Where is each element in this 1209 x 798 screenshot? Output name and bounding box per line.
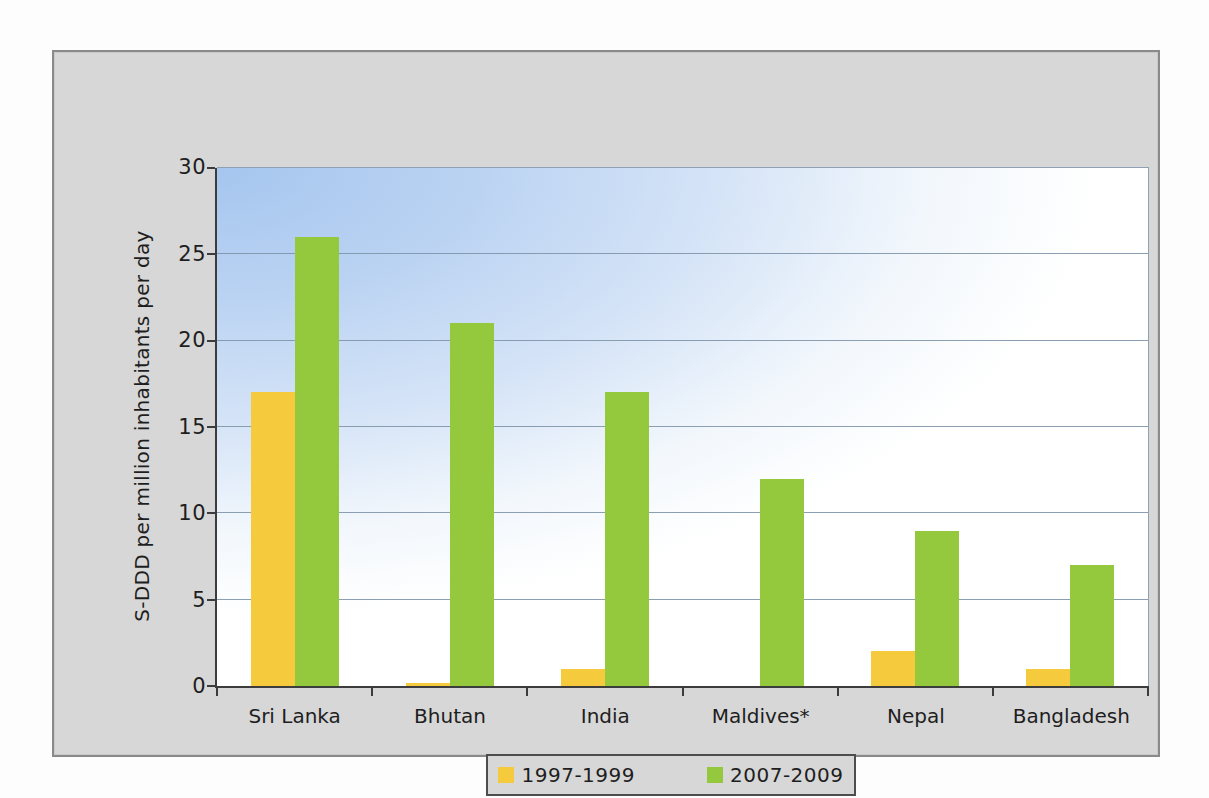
- y-tick-5: [207, 599, 215, 601]
- legend-box: 1997-1999 2007-2009: [486, 754, 856, 796]
- chart-panel: S-DDD per million inhabitants per day 05…: [52, 50, 1160, 757]
- y-tick-25: [207, 253, 215, 255]
- bar-bangladesh-1997-1999: [1026, 669, 1070, 686]
- y-tick-label-10: 10: [178, 501, 206, 525]
- x-category-label-nepal: Nepal: [838, 704, 993, 734]
- y-tick-label-20: 20: [178, 328, 206, 352]
- page: S-DDD per million inhabitants per day 05…: [0, 0, 1209, 798]
- bar-group-bhutan: [372, 168, 527, 686]
- y-tick-0: [207, 685, 215, 687]
- bar-group-india: [527, 168, 682, 686]
- bar-nepal-1997-1999: [871, 651, 915, 686]
- bar-sri-lanka-2007-2009: [295, 237, 339, 686]
- y-tick-label-25: 25: [178, 242, 206, 266]
- legend-swatch-1997-1999-icon: [498, 767, 514, 783]
- y-tick-20: [207, 340, 215, 342]
- bar-group-sri-lanka: [217, 168, 372, 686]
- x-category-label-india: India: [528, 704, 683, 734]
- x-tick-4: [837, 688, 839, 696]
- bar-group-maldives: [683, 168, 838, 686]
- bar-bhutan-1997-1999: [406, 683, 450, 686]
- y-axis-tick-labels: 051015202530: [154, 167, 206, 686]
- x-tick-1: [371, 688, 373, 696]
- y-tick-label-0: 0: [192, 674, 206, 698]
- plot-area: [217, 167, 1149, 686]
- bar-group-nepal: [838, 168, 993, 686]
- x-tick-5: [992, 688, 994, 696]
- bar-india-2007-2009: [605, 392, 649, 686]
- bar-nepal-2007-2009: [915, 531, 959, 686]
- bar-group-bangladesh: [993, 168, 1148, 686]
- legend-label-1997-1999: 1997-1999: [521, 763, 635, 787]
- bar-maldives-2007-2009: [760, 479, 804, 686]
- x-tick-3: [682, 688, 684, 696]
- x-category-label-bhutan: Bhutan: [372, 704, 527, 734]
- y-tick-10: [207, 512, 215, 514]
- bar-bhutan-2007-2009: [450, 323, 494, 686]
- x-tick-0: [216, 688, 218, 696]
- legend-item-2007-2009: 2007-2009: [707, 763, 844, 787]
- x-tick-6: [1147, 688, 1149, 696]
- x-category-label-bangladesh: Bangladesh: [994, 704, 1149, 734]
- x-category-label-sri-lanka: Sri Lanka: [217, 704, 372, 734]
- x-tick-2: [526, 688, 528, 696]
- bar-bangladesh-2007-2009: [1070, 565, 1114, 686]
- legend-item-1997-1999: 1997-1999: [498, 763, 635, 787]
- legend-swatch-2007-2009-icon: [707, 767, 723, 783]
- legend-label-2007-2009: 2007-2009: [730, 763, 844, 787]
- y-tick-label-5: 5: [192, 588, 206, 612]
- x-axis-category-labels: Sri LankaBhutanIndiaMaldives*NepalBangla…: [217, 704, 1149, 734]
- x-category-label-maldives: Maldives*: [683, 704, 838, 734]
- y-axis-title: S-DDD per million inhabitants per day: [130, 230, 154, 621]
- y-tick-label-15: 15: [178, 415, 206, 439]
- bar-india-1997-1999: [561, 669, 605, 686]
- y-tick-30: [207, 167, 215, 169]
- y-tick-label-30: 30: [178, 155, 206, 179]
- bar-sri-lanka-1997-1999: [251, 392, 295, 686]
- y-tick-15: [207, 426, 215, 428]
